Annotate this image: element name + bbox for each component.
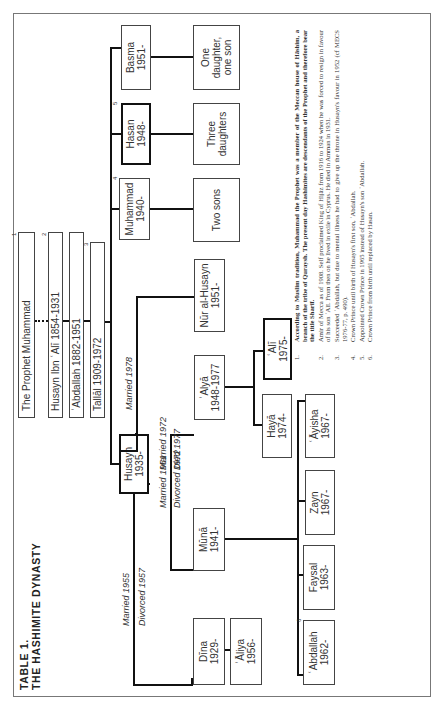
footnote-number: 4.	[349, 342, 357, 360]
footnote-text: Amir of Mecca as of 1908. Self proclaime…	[317, 30, 332, 342]
footnote-text: Crown Prince from birth until replaced b…	[366, 30, 374, 342]
person-name: Basma	[125, 42, 136, 73]
person-years: 1975-	[278, 336, 289, 362]
footnote-number: 6.	[366, 342, 374, 360]
person-ali: ʿAlī 1975-	[263, 318, 292, 380]
connector-line	[110, 47, 121, 49]
marriage-line-nur	[136, 296, 138, 452]
footnote-number: 3.	[333, 342, 348, 360]
person-years: 1948-1977	[210, 364, 221, 412]
person-alya: ʿAlyā 1948-1977	[194, 355, 225, 420]
footnote-1: 1. According to Muslim tradition, Muhamm…	[293, 30, 316, 360]
children-of-muhammad: Two sons	[193, 178, 240, 242]
ancestor-label: Tallāl 1909-1972	[92, 338, 103, 411]
title-line-2: THE HASHIMITE DYNASTY	[30, 543, 42, 690]
person-years: 1967-	[320, 413, 331, 439]
footnote-ref: 1	[11, 233, 17, 236]
person-name: Zayn	[309, 491, 320, 513]
person-muna: Mūnā 1941-	[193, 508, 225, 571]
divorce-label: Divorced 1957	[137, 568, 147, 626]
person-ayisha: ʿĀyisha 1967-	[305, 394, 335, 458]
children-summary: Two sons	[211, 189, 222, 231]
ancestor-label: Husayn Ibn ʿAlī 1854-1931	[50, 292, 61, 411]
connector-line	[253, 424, 262, 426]
person-name: ʿĀyisha	[309, 409, 320, 442]
footnote-number: 2.	[317, 342, 332, 360]
person-hasan: Hasan 1948-	[121, 103, 151, 165]
person-name: Husayn	[123, 447, 134, 481]
footnote-number: 5.	[358, 342, 366, 360]
children-of-basma: One daughter, one son	[193, 25, 240, 90]
person-husayn-king: Husayn 1935-	[119, 434, 149, 494]
connector-line	[133, 684, 193, 686]
person-years: 1962-	[319, 640, 330, 666]
person-nur-al-husayn: Nūr al-Husayn 1951-	[194, 259, 225, 332]
person-name: ʿAlyā	[199, 376, 210, 399]
person-name: Hasan	[125, 120, 136, 149]
person-dina: Dīna 1929-	[193, 618, 225, 685]
footnote-6: 6. Crown Prince from birth until replace…	[366, 30, 374, 360]
connector-line	[297, 500, 305, 502]
person-years: 1967-	[320, 490, 331, 516]
person-years: 1951-	[210, 283, 221, 309]
connector-line	[151, 133, 193, 135]
children-bus-alya	[253, 350, 255, 426]
marriage-label: Married 1955	[121, 573, 131, 626]
person-faysal: Faysal 1963-	[303, 545, 335, 610]
footnote-3: 3. Succeeded ʿAbdallah, but due to menta…	[333, 30, 348, 360]
person-name: ʿĀliya	[235, 639, 246, 664]
connector-line	[136, 296, 194, 298]
footnote-text: Succeeded ʿAbdallah, but due to mental i…	[333, 30, 348, 342]
person-years: 1974-	[277, 413, 288, 439]
person-name: Nūr al-Husayn	[199, 264, 210, 328]
ancestor-abdallah: ʿAbdallah 1882-1951	[69, 232, 84, 418]
ancestor-husayn-ibn-ali: Husayn Ibn ʿAlī 1854-1931	[48, 232, 63, 418]
ancestor-label: ʿAbdallah 1882-1951	[71, 318, 82, 411]
ancestor-label: The Prophet Muhammad	[21, 300, 32, 411]
person-years: 1941-	[209, 527, 220, 553]
ancestor-tallal: Tallāl 1909-1972	[90, 242, 105, 418]
children-bus-muna	[297, 400, 299, 676]
person-aliya: ʿĀliya 1956-	[230, 618, 262, 685]
footnote-text: According to Muslim tradition, Muhammad …	[293, 30, 316, 342]
connector-line	[149, 483, 150, 485]
person-years: 1948-	[136, 121, 147, 147]
footnote-ref: 3	[83, 243, 89, 246]
person-name: ʿAlī	[267, 342, 278, 357]
footnote-number: 1.	[293, 342, 316, 360]
person-name: Mūnā	[198, 527, 209, 552]
person-muhammad: Muhammad 1940-	[119, 178, 150, 240]
person-years: 1963-	[319, 565, 330, 591]
children-summary: Three daughters	[206, 109, 228, 159]
footnotes: 1. According to Muslim tradition, Muhamm…	[293, 30, 375, 360]
connector-line	[110, 208, 119, 210]
children-summary: One daughter, one son	[200, 30, 233, 85]
marriage-label: Married 1972	[158, 417, 168, 470]
footnote-ref: 2	[41, 233, 47, 236]
ancestor-prophet: The Prophet Muhammad	[18, 232, 35, 418]
dotted-descent-line	[35, 320, 48, 322]
person-name: Hayā	[266, 414, 277, 437]
genealogy-page: TABLE 1. THE HASHIMITE DYNASTY The Proph…	[0, 0, 441, 706]
footnote-4: 4. Crown Prince until birth of Husayn's …	[349, 30, 357, 360]
connector-line	[253, 350, 263, 352]
footnote-text: Crown Prince until birth of Husayn's fir…	[349, 30, 357, 342]
footnote-ref: 5	[112, 102, 118, 105]
person-abdallah-son: ʿAbdallah 1962-	[303, 620, 335, 685]
footnote-2: 2. Amir of Mecca as of 1908. Self procla…	[317, 30, 332, 360]
marriage-label: Married 1978	[124, 357, 134, 410]
person-name: Muhammad	[124, 183, 135, 236]
connector-line	[225, 538, 297, 540]
person-basma: Basma 1951-	[121, 25, 151, 90]
person-years: 1935-	[134, 451, 145, 477]
person-years: 1956-	[246, 639, 257, 665]
footnote-text: Appointed Crown Prince in 1965 instead o…	[358, 30, 366, 342]
connector-line	[297, 400, 305, 402]
marriage-line-dina	[133, 494, 135, 686]
footnote-ref: 6	[296, 619, 302, 622]
person-years: 1940-	[135, 196, 146, 222]
person-haya: Hayā 1974-	[262, 394, 292, 458]
connector-line	[110, 463, 119, 465]
footnote-5: 5. Appointed Crown Prince in 1965 instea…	[358, 30, 366, 360]
nur-stem-line	[119, 450, 136, 452]
